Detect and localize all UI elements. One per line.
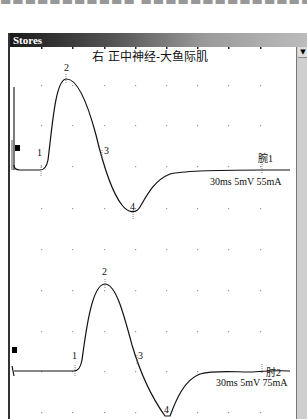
lower-marker-1: 1	[72, 350, 77, 361]
upper-trace-label: 腕1	[258, 150, 273, 165]
upper-waveform	[14, 79, 290, 212]
lower-waveform	[14, 284, 290, 416]
upper-trace-marker-icon[interactable]	[15, 145, 20, 151]
upper-marker-4: 4	[130, 201, 135, 212]
upper-trace-params: 30ms 5mV 55mA	[210, 176, 282, 187]
lower-trace-marker-icon[interactable]	[12, 347, 17, 353]
upper-marker-3: 3	[104, 145, 109, 156]
upper-marker-2: 2	[64, 62, 69, 73]
upper-marker-1: 1	[37, 147, 42, 158]
chart-title: 右 正中神经-大鱼际肌	[0, 47, 300, 64]
lower-trace-params: 30ms 5mV 75mA	[216, 377, 288, 388]
lower-marker-3: 3	[138, 350, 143, 361]
lower-marker-2: 2	[102, 266, 107, 277]
lower-marker-4: 4	[164, 404, 169, 415]
